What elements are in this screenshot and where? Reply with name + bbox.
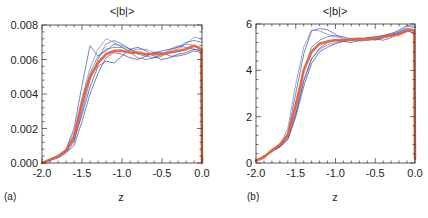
y-tick-label: 6 [246,18,252,30]
panel-label: (b) [247,191,259,202]
series-line-run-5 [256,30,415,161]
series-line-mean [42,46,202,163]
y-tick-label: 0.000 [10,157,38,169]
x-tick-label: -1.5 [73,167,92,179]
series-line-run-6 [256,29,415,161]
panel-a: <|b|> z (a) -2.0-1.5-1.0-0.50.00.0000.00… [4,5,210,203]
series-line-run-5 [42,51,202,163]
series-line-run-1 [42,41,202,164]
y-tick-label: 0.006 [10,54,38,66]
x-axis-label: z [332,191,338,203]
x-tick-label: 0.0 [407,167,422,179]
series-line-run-3 [256,31,415,161]
y-tick-label: 0.008 [10,19,38,31]
panel-b: <|b|> z (b) -2.0-1.5-1.0-0.50.00246 [246,5,423,203]
series-line-run-2 [256,29,415,161]
series-line-run-1 [256,26,415,160]
series-line-mean [256,30,415,161]
x-axis-label: z [118,191,124,203]
y-tick-label: 0.002 [10,123,38,135]
series-line-run-3 [42,47,202,163]
series-line-run-4 [256,25,415,161]
plot-frame [256,24,415,163]
x-tick-label: -1.0 [113,167,132,179]
panel-label: (a) [4,191,16,202]
x-tick-label: -0.5 [366,167,385,179]
x-tick-label: 0.0 [194,167,209,179]
y-tick-label: 0 [246,157,252,169]
x-tick-label: -1.0 [326,167,345,179]
series-line-run-6 [42,46,202,163]
chart-title: <|b|> [323,5,348,17]
y-tick-label: 4 [246,64,252,76]
y-tick-label: 0.004 [10,88,38,100]
x-tick-label: -0.5 [153,167,172,179]
y-tick-label: 2 [246,111,252,123]
series-line-run-2 [42,41,202,164]
chart-title: <|b|> [110,5,135,17]
figure: <|b|> z (a) -2.0-1.5-1.0-0.50.00.0000.00… [0,0,428,218]
x-tick-label: -1.5 [286,167,305,179]
